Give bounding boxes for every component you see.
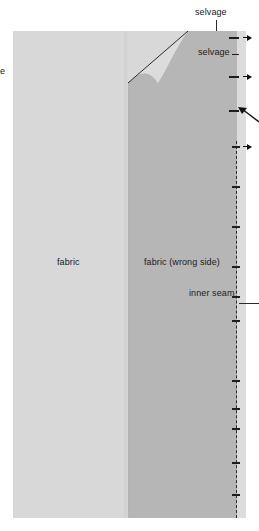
edge-tick — [232, 380, 240, 382]
selvage-arrow-marker — [243, 37, 251, 38]
selvage-right-label: selvage — [198, 48, 230, 57]
selvage-top-leader-line — [216, 20, 217, 31]
edge-tick — [232, 494, 240, 496]
inner-seam-label: inner seam — [189, 289, 235, 298]
fabric-label: fabric — [57, 258, 80, 267]
inner-seam-leader-line — [239, 303, 259, 304]
edge-tick — [232, 428, 240, 430]
folded-corner-peel — [128, 31, 188, 83]
selvage-arrow-marker — [243, 76, 251, 77]
fabric-right-side-region — [13, 31, 128, 518]
selvage-left-clipped-label: ge — [0, 67, 5, 76]
selvage-label-pointer-dash — [232, 54, 239, 55]
inner-seam-label-pointer-dash — [234, 296, 239, 297]
selvage-diagonal-arrow — [238, 98, 259, 124]
fabric-wrong-side-region — [128, 31, 237, 518]
edge-tick — [232, 266, 240, 268]
fabric-diagram: selvage selvage ge fabric fabric (wrong … — [0, 0, 259, 531]
edge-tick — [232, 146, 240, 148]
edge-tick — [232, 226, 240, 228]
edge-tick — [232, 462, 240, 464]
selvage-arrow-marker — [243, 146, 251, 147]
fabric-wrong-side-label: fabric (wrong side) — [144, 258, 220, 267]
edge-tick — [232, 408, 240, 410]
selvage-top-label: selvage — [195, 8, 227, 17]
edge-tick — [232, 320, 240, 322]
edge-tick — [229, 37, 239, 39]
fold-shading — [124, 31, 130, 518]
edge-tick — [232, 186, 240, 188]
edge-tick — [229, 76, 239, 78]
